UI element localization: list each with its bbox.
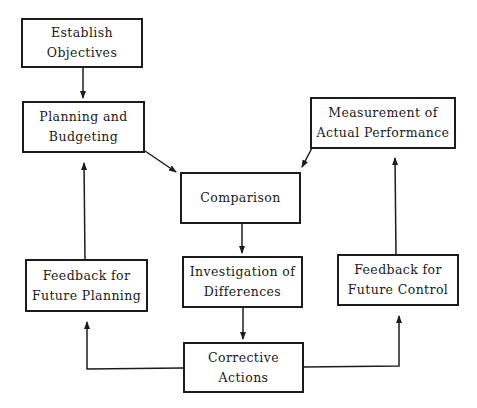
node-label-line: Establish	[51, 23, 113, 43]
node-planning-and-budgeting: Planning and Budgeting	[22, 101, 145, 153]
node-label-line: Comparison	[200, 188, 280, 208]
node-label-line: Future Control	[348, 280, 448, 300]
arrow-measurement-to-comparison	[302, 148, 312, 167]
arrow-corrective-to-feedback-planning	[87, 322, 183, 369]
arrow-feedback-control-to-measurement	[395, 158, 396, 254]
node-label-line: Future Planning	[32, 286, 141, 306]
node-label-line: Actual Performance	[317, 123, 450, 143]
node-label-line: Planning and	[39, 107, 127, 127]
node-feedback-for-future-control: Feedback for Future Control	[337, 254, 459, 306]
arrow-planning-to-comparison	[145, 151, 176, 172]
node-label-line: Corrective	[208, 348, 279, 368]
node-establish-objectives: Establish Objectives	[21, 18, 143, 68]
node-investigation-of-differences: Investigation of Differences	[182, 256, 303, 308]
arrow-corrective-to-feedback-control	[303, 316, 399, 367]
node-label-line: Actions	[219, 368, 269, 388]
node-label-line: Measurement of	[328, 103, 438, 123]
node-label-line: Feedback for	[43, 266, 131, 286]
node-measurement-of-actual-performance: Measurement of Actual Performance	[310, 97, 456, 149]
arrow-feedback-planning-to-planning	[84, 163, 85, 259]
node-label-line: Objectives	[47, 43, 117, 63]
node-feedback-for-future-planning: Feedback for Future Planning	[25, 259, 148, 312]
node-label-line: Budgeting	[49, 127, 118, 147]
node-label-line: Investigation of	[190, 262, 295, 282]
node-comparison: Comparison	[180, 172, 301, 224]
node-label-line: Feedback for	[354, 260, 442, 280]
node-label-line: Differences	[204, 282, 281, 302]
node-corrective-actions: Corrective Actions	[183, 342, 304, 393]
